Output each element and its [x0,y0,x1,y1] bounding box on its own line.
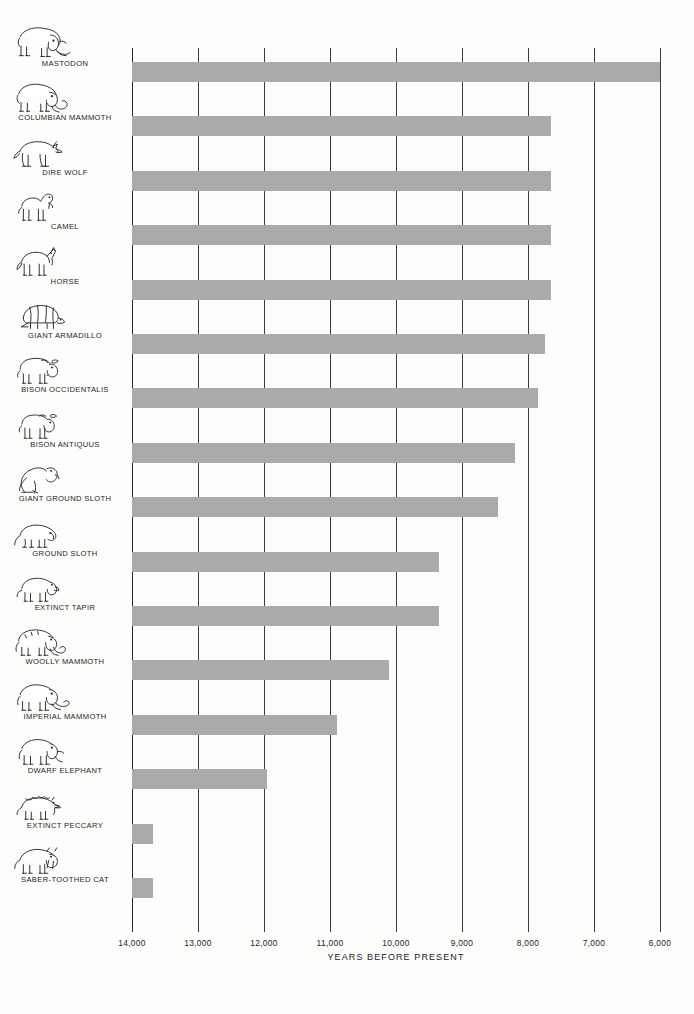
x-tick-label-7000: 7,000 [583,938,605,948]
category-label-ground-sloth: GROUND SLOTH [0,514,130,558]
bar-ground-sloth [132,552,439,572]
gridline-7000 [594,48,595,932]
category-label-dwarf-elephant: DWARF ELEPHANT [0,731,130,775]
category-name-text: EXTINCT TAPIR [0,603,130,612]
woolly-mammoth-icon [0,622,130,656]
bar-giant-ground-sloth [132,497,498,517]
category-name-text: IMPERIAL MAMMOTH [0,712,130,721]
ground-sloth-icon [0,514,130,548]
category-name-text: CAMEL [0,222,130,231]
camel-icon [0,187,130,221]
category-name-text: MASTODON [0,59,130,68]
bar-dwarf-elephant [132,769,267,789]
category-label-saber-toothed-cat: SABER-TOOTHED CAT [0,840,130,884]
bar-camel [132,225,551,245]
category-label-dire-wolf: DIRE WOLF [0,133,130,177]
bison-antiquus-icon [0,405,130,439]
x-tick-label-8000: 8,000 [517,938,539,948]
bar-extinct-tapir [132,606,439,626]
bar-saber-toothed-cat [132,878,153,898]
category-label-giant-armadillo: GIANT ARMADILLO [0,296,130,340]
bar-bison-occidentalis [132,388,538,408]
category-label-bison-occidentalis: BISON OCCIDENTALIS [0,350,130,394]
bar-bison-antiquus [132,443,515,463]
category-label-horse: HORSE [0,242,130,286]
category-label-bison-antiquus: BISON ANTIQUUS [0,405,130,449]
mastodon-icon [0,24,130,58]
category-name-text: WOOLLY MAMMOTH [0,657,130,666]
x-tick-label-13000: 13,000 [184,938,211,948]
x-axis-title: YEARS BEFORE PRESENT [132,952,660,962]
bar-extinct-peccary [132,824,153,844]
bar-columbian-mammoth [132,116,551,136]
imperial-mammoth-icon [0,677,130,711]
extinct-peccary-icon [0,786,130,820]
bar-mastodon [132,62,660,82]
category-label-camel: CAMEL [0,187,130,231]
giant-armadillo-icon [0,296,130,330]
extinct-tapir-icon [0,568,130,602]
category-label-column: MASTODONCOLUMBIAN MAMMOTHDIRE WOLFCAMELH… [0,48,132,932]
category-label-columbian-mammoth: COLUMBIAN MAMMOTH [0,78,130,122]
category-name-text: GROUND SLOTH [0,549,130,558]
x-tick-label-14000: 14,000 [118,938,145,948]
bar-imperial-mammoth [132,715,337,735]
category-label-imperial-mammoth: IMPERIAL MAMMOTH [0,677,130,721]
x-tick-label-9000: 9,000 [451,938,473,948]
x-tick-label-11000: 11,000 [317,938,344,948]
category-label-woolly-mammoth: WOOLLY MAMMOTH [0,622,130,666]
category-name-text: EXTINCT PECCARY [0,821,130,830]
category-label-giant-ground-sloth: GIANT GROUND SLOTH [0,459,130,503]
extinction-timeline-chart: MASTODONCOLUMBIAN MAMMOTHDIRE WOLFCAMELH… [0,0,694,1014]
category-name-text: HORSE [0,277,130,286]
category-name-text: COLUMBIAN MAMMOTH [0,113,130,122]
horse-icon [0,242,130,276]
plot-area [132,48,660,932]
x-tick-label-6000: 6,000 [649,938,671,948]
x-tick-label-10000: 10,000 [382,938,409,948]
bar-dire-wolf [132,171,551,191]
dwarf-elephant-icon [0,731,130,765]
bar-giant-armadillo [132,334,545,354]
bar-woolly-mammoth [132,660,389,680]
category-name-text: SABER-TOOTHED CAT [0,875,130,884]
category-name-text: GIANT ARMADILLO [0,331,130,340]
columbian-mammoth-icon [0,78,130,112]
bar-horse [132,280,551,300]
category-label-extinct-peccary: EXTINCT PECCARY [0,786,130,830]
category-name-text: DIRE WOLF [0,168,130,177]
gridline-6000 [660,48,661,932]
giant-ground-sloth-icon [0,459,130,493]
dire-wolf-icon [0,133,130,167]
category-name-text: BISON ANTIQUUS [0,440,130,449]
bison-occidentalis-icon [0,350,130,384]
category-name-text: GIANT GROUND SLOTH [0,494,130,503]
category-name-text: BISON OCCIDENTALIS [0,385,130,394]
category-label-extinct-tapir: EXTINCT TAPIR [0,568,130,612]
saber-toothed-cat-icon [0,840,130,874]
x-tick-label-12000: 12,000 [250,938,277,948]
category-name-text: DWARF ELEPHANT [0,766,130,775]
category-label-mastodon: MASTODON [0,24,130,68]
